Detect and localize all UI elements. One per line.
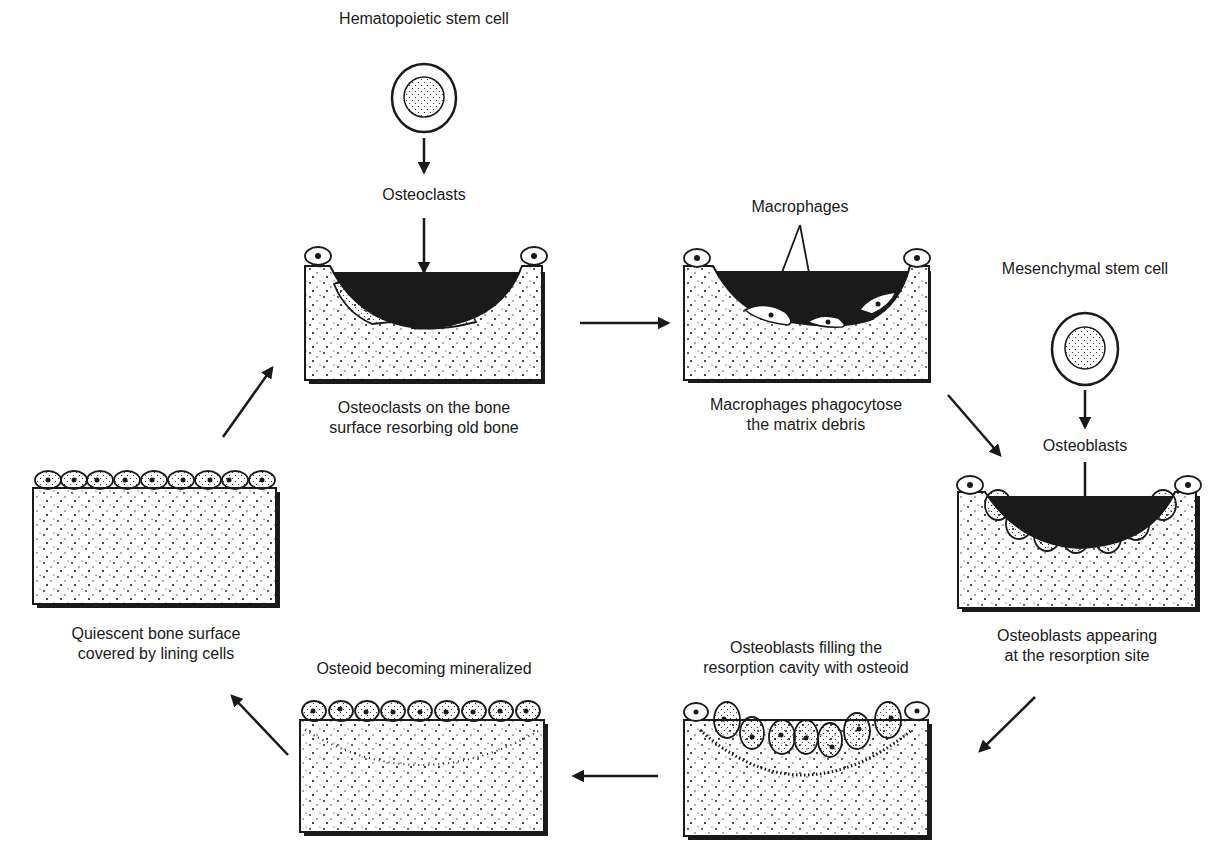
caption-line: the matrix debris xyxy=(710,415,902,435)
stage-formation-illustration xyxy=(684,702,932,840)
caption-line: at the resorption site xyxy=(997,646,1157,666)
stage-osteoblast-recruitment-caption: Osteoblasts appearing at the resorption … xyxy=(997,626,1157,666)
caption-line: resorption cavity with osteoid xyxy=(703,658,908,678)
stage-formation-caption: Osteoblasts filling the resorption cavit… xyxy=(703,638,908,678)
arrow-diagonal-icon xyxy=(948,395,1000,455)
stage-quiescent-caption: Quiescent bone surface covered by lining… xyxy=(72,624,241,664)
stage-osteoblast-recruitment-illustration xyxy=(957,476,1201,612)
caption-line: Quiescent bone surface xyxy=(72,624,241,644)
bone-remodeling-diagram xyxy=(0,0,1229,857)
caption-line: Osteoblasts appearing xyxy=(997,626,1157,646)
hematopoietic-stem-cell-label: Hematopoietic stem cell xyxy=(339,9,509,29)
hematopoietic-stem-cell-icon xyxy=(392,64,456,132)
arrow-diagonal-icon xyxy=(223,368,272,437)
stage-resorption-illustration xyxy=(305,247,547,384)
caption-line: Osteoclasts on the bone xyxy=(329,398,518,418)
stage-mineralization-illustration xyxy=(300,701,548,836)
osteoblasts-label: Osteoblasts xyxy=(1043,436,1127,456)
stage-mineralization-caption: Osteoid becoming mineralized xyxy=(316,659,531,679)
macrophages-label: Macrophages xyxy=(752,197,849,217)
osteoclasts-label: Osteoclasts xyxy=(382,185,466,205)
arrow-diagonal-icon xyxy=(980,697,1035,751)
stage-quiescent-illustration xyxy=(33,471,280,608)
stage-resorption-caption: Osteoclasts on the bone surface resorbin… xyxy=(329,398,518,438)
arrow-diagonal-icon xyxy=(232,696,288,755)
stage-reversal-illustration xyxy=(684,225,931,383)
caption-line: Macrophages phagocytose xyxy=(710,395,902,415)
mesenchymal-stem-cell-icon xyxy=(1052,313,1118,385)
caption-line: Osteoid becoming mineralized xyxy=(316,659,531,679)
stage-reversal-caption: Macrophages phagocytose the matrix debri… xyxy=(710,395,902,435)
caption-line: surface resorbing old bone xyxy=(329,418,518,438)
caption-line: Osteoblasts filling the xyxy=(703,638,908,658)
caption-line: covered by lining cells xyxy=(72,644,241,664)
mesenchymal-stem-cell-label: Mesenchymal stem cell xyxy=(1002,259,1168,279)
